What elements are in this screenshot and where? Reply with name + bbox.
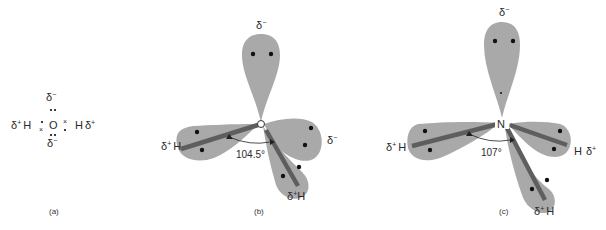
- panel-b: δ− 104.5° δ+H δ− δ+H (b): [161, 19, 337, 216]
- electron-dot: [251, 52, 255, 56]
- panel-c: δ− N 107° δ+H Hδ+ δ+H (c): [386, 6, 596, 217]
- delta-minus-bottom-label: δ−: [47, 137, 57, 149]
- delta-minus-top-label: δ−: [499, 6, 509, 18]
- electron-dot: [54, 134, 56, 136]
- caption-c: (c): [499, 207, 509, 216]
- electron-dot: [500, 92, 502, 94]
- h-right-label: Hδ+: [75, 119, 95, 131]
- electron-cross: ×: [39, 126, 43, 133]
- electron-dot: [309, 126, 313, 130]
- molecular-orbital-figure: δ− δ+H × O × Hδ+ δ− (a) δ−: [0, 0, 606, 230]
- panel-a: δ− δ+H × O × Hδ+ δ− (a): [11, 91, 95, 216]
- lone-pair-orbital-top: [484, 22, 520, 118]
- bond-angle-label: 104.5°: [236, 149, 265, 160]
- nitrogen-atom: N: [497, 118, 505, 130]
- delta-minus-top-label: δ−: [256, 19, 266, 31]
- h-left-label: δ+H: [11, 119, 31, 131]
- electron-dot: [303, 143, 307, 147]
- electron-dot: [511, 39, 515, 43]
- caption-b: (b): [254, 207, 264, 216]
- bond-angle-label: 107°: [481, 147, 502, 158]
- electron-dot: [195, 130, 199, 134]
- oxygen-atom: O: [49, 119, 58, 131]
- electron-dot: [493, 39, 497, 43]
- h-left-label: δ+H: [386, 141, 406, 153]
- electron-dot: [281, 174, 285, 178]
- electron-dot: [530, 187, 534, 191]
- caption-a: (a): [49, 207, 59, 216]
- h-bottom-label: δ+H: [287, 190, 305, 202]
- electron-cross: ×: [63, 118, 67, 125]
- electron-dot: [41, 121, 43, 123]
- h-left-label: δ+H: [161, 140, 181, 152]
- oxygen-atom: [258, 121, 265, 128]
- delta-minus-top-label: δ−: [46, 91, 56, 103]
- electron-dot: [269, 52, 273, 56]
- electron-dot: [50, 109, 52, 111]
- electron-dot: [50, 134, 52, 136]
- h-bottom-label: δ+H: [534, 205, 554, 217]
- h-right-label: Hδ+: [574, 145, 596, 157]
- electron-dot: [552, 147, 556, 151]
- electron-dot: [64, 129, 66, 131]
- electron-dot: [297, 165, 301, 169]
- lone-pair-orbital-top: [242, 34, 280, 122]
- electron-dot: [423, 129, 427, 133]
- electron-dot: [558, 129, 562, 133]
- electron-dot: [54, 109, 56, 111]
- electron-dot: [428, 148, 432, 152]
- electron-dot: [200, 148, 204, 152]
- delta-minus-right-label: δ−: [327, 134, 337, 146]
- electron-dot: [545, 178, 549, 182]
